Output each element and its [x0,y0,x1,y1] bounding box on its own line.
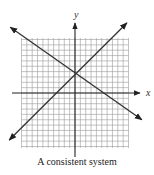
coordinate-graph: x y [0,0,154,175]
axes [12,23,140,157]
x-axis-label: x [145,87,151,98]
y-axis-label: y [73,9,79,20]
figure-caption: A consistent system [0,156,154,167]
